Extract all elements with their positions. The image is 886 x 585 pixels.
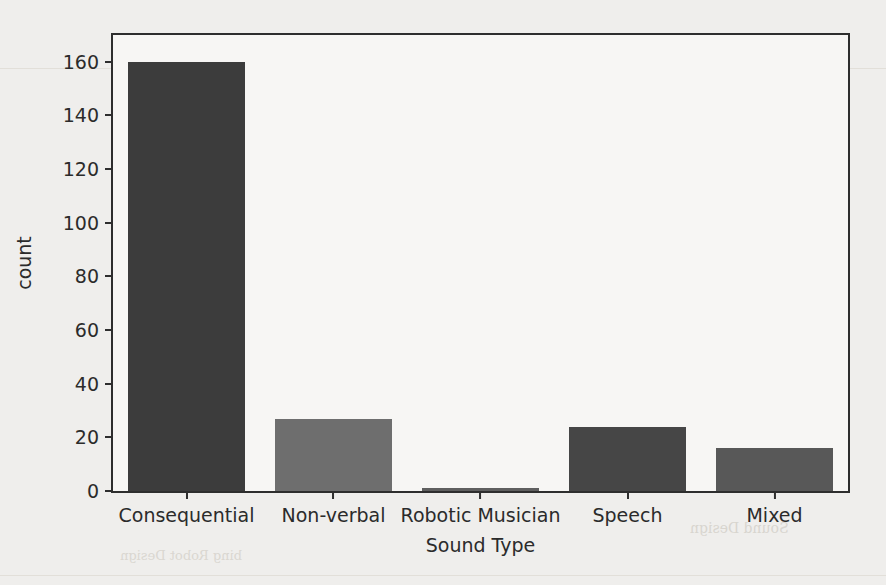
x-tick-label: Consequential (118, 504, 254, 526)
y-tick-label: 80 (75, 265, 99, 287)
x-tick-mark (774, 491, 776, 499)
y-tick-mark (105, 114, 113, 116)
y-tick-label: 160 (63, 51, 99, 73)
y-tick-label: 20 (75, 426, 99, 448)
y-tick-20: 20 (75, 426, 113, 448)
bar-speech (569, 427, 687, 491)
x-tick-mark (480, 491, 482, 499)
y-tick-label: 40 (75, 373, 99, 395)
y-tick-mark (105, 222, 113, 224)
y-tick-label: 0 (87, 480, 99, 502)
y-tick-mark (105, 168, 113, 170)
bar-series (113, 35, 848, 491)
x-tick-consequential: Consequential (118, 491, 254, 526)
y-tick-mark (105, 383, 113, 385)
y-tick-label: 60 (75, 319, 99, 341)
y-tick-mark (105, 61, 113, 63)
y-tick-160: 160 (63, 51, 113, 73)
y-tick-mark (105, 329, 113, 331)
bar-mixed (716, 448, 834, 491)
x-axis-title: Sound Type (111, 534, 850, 556)
y-tick-120: 120 (63, 158, 113, 180)
y-tick-mark (105, 275, 113, 277)
y-tick-100: 100 (63, 212, 113, 234)
x-tick-label: Mixed (746, 504, 802, 526)
x-tick-label: Non-verbal (282, 504, 386, 526)
y-tick-label: 140 (63, 104, 99, 126)
y-tick-60: 60 (75, 319, 113, 341)
y-tick-label: 120 (63, 158, 99, 180)
y-tick-mark (105, 436, 113, 438)
x-tick-mark (627, 491, 629, 499)
x-tick-robotic-musician: Robotic Musician (401, 491, 561, 526)
x-tick-label: Robotic Musician (401, 504, 561, 526)
y-tick-80: 80 (75, 265, 113, 287)
bar-consequential (128, 62, 246, 491)
y-axis-title: count (13, 236, 35, 290)
y-tick-0: 0 (87, 480, 113, 502)
figure-page: The Landscape of Sound in Robotics Anna … (0, 0, 886, 585)
x-tick-mark (185, 491, 187, 499)
y-tick-label: 100 (63, 212, 99, 234)
plot-area: 020406080100120140160 ConsequentialNon-v… (111, 33, 850, 493)
bar-non-verbal (275, 419, 393, 491)
y-tick-40: 40 (75, 373, 113, 395)
bleed-rule-bottom (0, 575, 886, 576)
y-tick-140: 140 (63, 104, 113, 126)
x-tick-speech: Speech (593, 491, 663, 526)
x-tick-label: Speech (593, 504, 663, 526)
x-tick-mark (332, 491, 334, 499)
x-tick-non-verbal: Non-verbal (282, 491, 386, 526)
y-tick-mark (105, 490, 113, 492)
x-tick-mixed: Mixed (746, 491, 802, 526)
